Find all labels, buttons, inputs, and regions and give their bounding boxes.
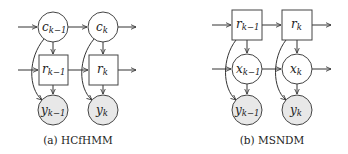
node-r-km1: rk−1 xyxy=(39,55,68,85)
node-r-km1: rk−1 xyxy=(232,10,262,40)
caption-b: (b) MSNDM xyxy=(240,134,305,146)
node-x-km1: xk−1 xyxy=(232,54,262,84)
node-y-km1-observed: yk−1 xyxy=(232,95,262,125)
diagram-canvas: ck−1 ck rk−1 rk yk−1 yk (a) HCfHMM xyxy=(0,0,348,154)
node-c-k: ck xyxy=(88,12,118,42)
node-x-k: xk xyxy=(282,54,312,84)
node-r-k: rk xyxy=(282,10,312,40)
node-c-km1: ck−1 xyxy=(38,12,68,42)
caption-a: (a) HCfHMM xyxy=(43,134,113,146)
node-y-k-observed: yk xyxy=(88,95,118,125)
figure-a-hcfhmm: ck−1 ck rk−1 rk yk−1 yk (a) HCfHMM xyxy=(18,12,136,146)
node-y-k-observed: yk xyxy=(282,95,312,125)
node-r-k: rk xyxy=(89,55,118,85)
node-y-km1-observed: yk−1 xyxy=(38,95,68,125)
figure-b-msndm: rk−1 rk xk−1 xk yk−1 yk (b) MSNDM xyxy=(212,10,331,146)
